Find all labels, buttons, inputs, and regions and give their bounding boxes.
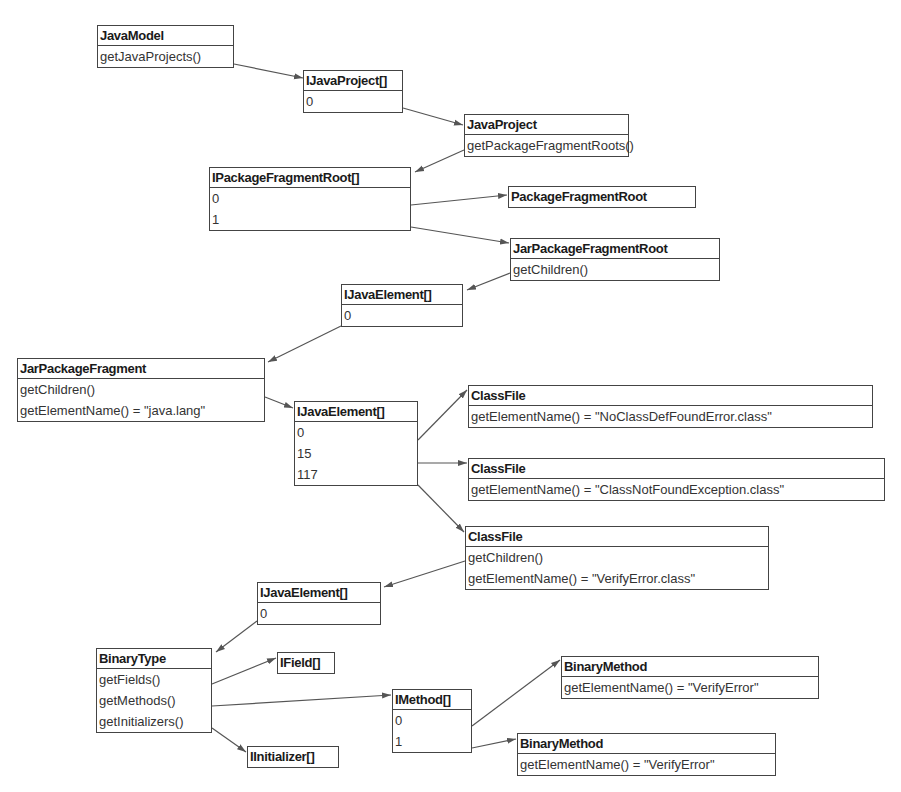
node-member-row[interactable]: 15 bbox=[295, 443, 417, 464]
node-members: getPackageFragmentRoots() bbox=[465, 134, 628, 156]
arrow-imethod_arr-to-binarymethod_2 bbox=[472, 739, 516, 748]
node-ipackagefragmentroot_arr[interactable]: IPackageFragmentRoot[] 01 bbox=[209, 167, 411, 231]
arrow-ijavaelement_arr_2-to-classfile_1 bbox=[418, 390, 467, 440]
node-member-row[interactable]: getInitializers() bbox=[97, 711, 211, 732]
arrow-javaproject-to-ipackagefragmentroot_arr bbox=[415, 150, 464, 172]
node-title: PackageFragmentRoot bbox=[509, 187, 695, 207]
node-classfile_3[interactable]: ClassFile getChildren()getElementName() … bbox=[465, 526, 769, 590]
node-member-row[interactable]: getJavaProjects() bbox=[98, 46, 233, 67]
node-members: getChildren()getElementName() = "VerifyE… bbox=[466, 546, 768, 589]
node-javaproject[interactable]: JavaProject getPackageFragmentRoots() bbox=[464, 114, 629, 157]
node-member-row[interactable]: 0 bbox=[295, 422, 417, 443]
node-title: JavaProject bbox=[465, 115, 628, 134]
node-jarpackagefragment[interactable]: JarPackageFragment getChildren()getEleme… bbox=[17, 358, 265, 422]
node-title: IJavaElement[] bbox=[295, 402, 417, 421]
node-title: IField[] bbox=[278, 653, 334, 673]
node-binarytype[interactable]: BinaryType getFields()getMethods()getIni… bbox=[96, 648, 212, 733]
arrow-binarytype-to-ifield_arr bbox=[212, 658, 276, 684]
node-member-row[interactable]: 1 bbox=[210, 209, 410, 230]
node-members: getElementName() = "NoClassDefFoundError… bbox=[469, 405, 872, 427]
node-title: IJavaElement[] bbox=[258, 583, 380, 602]
node-members: getElementName() = "ClassNotFoundExcepti… bbox=[469, 478, 884, 500]
node-members: getJavaProjects() bbox=[98, 45, 233, 67]
node-member-row[interactable]: 0 bbox=[304, 91, 402, 112]
arrow-jarpackagefragment-to-ijavaelement_arr_2 bbox=[265, 397, 293, 408]
node-members: 0 bbox=[342, 304, 462, 326]
node-member-row[interactable]: getElementName() = "VerifyError" bbox=[562, 677, 818, 698]
node-title: JarPackageFragment bbox=[18, 359, 264, 378]
node-members: 0 bbox=[258, 602, 380, 624]
node-member-row[interactable]: getMethods() bbox=[97, 690, 211, 711]
node-title: BinaryMethod bbox=[562, 657, 818, 676]
node-title: IJavaProject[] bbox=[304, 71, 402, 90]
node-member-row[interactable]: getFields() bbox=[97, 669, 211, 690]
node-title: ClassFile bbox=[469, 386, 872, 405]
node-title: ClassFile bbox=[469, 459, 884, 478]
node-ijavaproject_arr[interactable]: IJavaProject[] 0 bbox=[303, 70, 403, 113]
node-member-row[interactable]: 117 bbox=[295, 464, 417, 485]
node-member-row[interactable]: getElementName() = "ClassNotFoundExcepti… bbox=[469, 479, 884, 500]
node-members: getElementName() = "VerifyError" bbox=[518, 753, 775, 775]
node-member-row[interactable]: getElementName() = "NoClassDefFoundError… bbox=[469, 406, 872, 427]
node-title: IMethod[] bbox=[393, 690, 471, 709]
node-ijavaelement_arr_2[interactable]: IJavaElement[] 015117 bbox=[294, 401, 418, 486]
node-javamodel[interactable]: JavaModel getJavaProjects() bbox=[97, 25, 234, 68]
node-binarymethod_2[interactable]: BinaryMethod getElementName() = "VerifyE… bbox=[517, 733, 776, 776]
node-members: 0 bbox=[304, 90, 402, 112]
arrow-imethod_arr-to-binarymethod_1 bbox=[472, 660, 560, 726]
node-packagefragmentroot[interactable]: PackageFragmentRoot bbox=[508, 186, 696, 208]
node-member-row[interactable]: getChildren() bbox=[18, 379, 264, 400]
arrow-jarpackagefragmentroot-to-ijavaelement_arr_1 bbox=[467, 273, 510, 290]
arrow-ipackagefragmentroot_arr-to-packagefragmentroot bbox=[411, 195, 507, 205]
node-title: JarPackageFragmentRoot bbox=[511, 239, 719, 258]
node-member-row[interactable]: 0 bbox=[342, 305, 462, 326]
arrow-ijavaproject_arr-to-javaproject bbox=[403, 108, 463, 125]
node-member-row[interactable]: 0 bbox=[258, 603, 380, 624]
arrow-ijavaelement_arr_1-to-jarpackagefragment bbox=[268, 326, 341, 362]
node-ijavaelement_arr_1[interactable]: IJavaElement[] 0 bbox=[341, 284, 463, 327]
node-member-row[interactable]: getElementName() = "VerifyError" bbox=[518, 754, 775, 775]
arrow-ijavaelement_arr_3-to-binarytype bbox=[216, 621, 257, 652]
node-iinitializer_arr[interactable]: IInitializer[] bbox=[247, 746, 339, 768]
node-members: getElementName() = "VerifyError" bbox=[562, 676, 818, 698]
node-ijavaelement_arr_3[interactable]: IJavaElement[] 0 bbox=[257, 582, 381, 625]
node-members: 01 bbox=[393, 709, 471, 752]
arrow-ijavaelement_arr_2-to-classfile_3 bbox=[418, 485, 464, 532]
node-member-row[interactable]: 1 bbox=[393, 731, 471, 752]
node-ifield_arr[interactable]: IField[] bbox=[277, 652, 335, 674]
node-members: getChildren() bbox=[511, 258, 719, 280]
node-title: IJavaElement[] bbox=[342, 285, 462, 304]
node-members: 015117 bbox=[295, 421, 417, 485]
object-graph-diagram: JavaModel getJavaProjects() IJavaProject… bbox=[0, 0, 901, 792]
node-member-row[interactable]: getElementName() = "VerifyError.class" bbox=[466, 568, 768, 589]
node-member-row[interactable]: 0 bbox=[393, 710, 471, 731]
arrow-javamodel-to-ijavaproject_arr bbox=[234, 64, 303, 78]
node-title: IPackageFragmentRoot[] bbox=[210, 168, 410, 187]
arrow-binarytype-to-iinitializer_arr bbox=[212, 728, 246, 752]
node-title: JavaModel bbox=[98, 26, 233, 45]
node-title: BinaryType bbox=[97, 649, 211, 668]
node-title: BinaryMethod bbox=[518, 734, 775, 753]
node-member-row[interactable]: 0 bbox=[210, 188, 410, 209]
node-jarpackagefragmentroot[interactable]: JarPackageFragmentRoot getChildren() bbox=[510, 238, 720, 281]
node-member-row[interactable]: getChildren() bbox=[511, 259, 719, 280]
node-member-row[interactable]: getChildren() bbox=[466, 547, 768, 568]
node-binarymethod_1[interactable]: BinaryMethod getElementName() = "VerifyE… bbox=[561, 656, 819, 699]
node-members: getChildren()getElementName() = "java.la… bbox=[18, 378, 264, 421]
node-title: IInitializer[] bbox=[248, 747, 338, 767]
node-members: 01 bbox=[210, 187, 410, 230]
arrow-binarytype-to-imethod_arr bbox=[212, 695, 391, 706]
node-member-row[interactable]: getElementName() = "java.lang" bbox=[18, 400, 264, 421]
node-imethod_arr[interactable]: IMethod[] 01 bbox=[392, 689, 472, 753]
node-members: getFields()getMethods()getInitializers() bbox=[97, 668, 211, 732]
node-member-row[interactable]: getPackageFragmentRoots() bbox=[465, 135, 628, 156]
arrow-ipackagefragmentroot_arr-to-jarpackagefragmentroot bbox=[411, 227, 509, 243]
node-title: ClassFile bbox=[466, 527, 768, 546]
arrow-classfile_3-to-ijavaelement_arr_3 bbox=[384, 561, 465, 587]
node-classfile_1[interactable]: ClassFile getElementName() = "NoClassDef… bbox=[468, 385, 873, 428]
node-classfile_2[interactable]: ClassFile getElementName() = "ClassNotFo… bbox=[468, 458, 885, 501]
